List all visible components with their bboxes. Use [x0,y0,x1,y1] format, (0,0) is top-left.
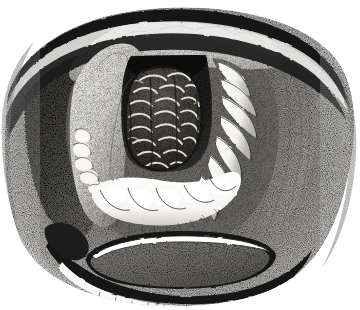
figure-field [0,0,360,310]
engraving-canvas [0,0,360,310]
anatomical-figure [0,0,360,310]
